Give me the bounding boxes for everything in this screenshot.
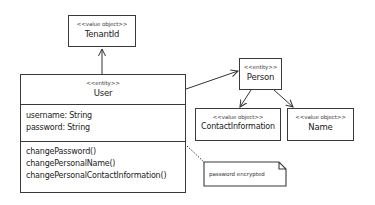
attributes-compartment: username: String password: String (21, 105, 185, 142)
class-name: TenantId (69, 29, 135, 39)
class-name: User (21, 88, 185, 98)
class-name: Person (240, 72, 281, 82)
association-person-name (274, 90, 293, 107)
method-change-password: changePassword() (26, 146, 185, 158)
association-person-contactinformation (240, 90, 251, 107)
stereotype-label: <<entity>> (240, 64, 281, 70)
method-change-personal-contact-information: changePersonalContactInformation() (26, 170, 185, 182)
class-contactinformation[interactable]: <<value object>> ContactInformation (195, 108, 281, 141)
class-name-valueobject[interactable]: <<value object>> Name (287, 108, 354, 141)
methods-compartment: changePassword() changePersonalName() ch… (21, 142, 185, 182)
association-user-person (186, 71, 238, 89)
class-tenantid[interactable]: <<value object>> TenantId (68, 15, 136, 47)
stereotype-label: <<value object>> (196, 114, 280, 120)
stereotype-label: <<value object>> (69, 21, 135, 27)
class-person[interactable]: <<entity>> Person (239, 58, 282, 90)
note-anchor-line (187, 146, 204, 162)
stereotype-label: <<value object>> (288, 114, 353, 120)
method-change-personal-name: changePersonalName() (26, 158, 185, 170)
class-user[interactable]: <<entity>> User username: String passwor… (20, 74, 186, 193)
note-password-encrypted: password encrypted (209, 171, 265, 177)
stereotype-label: <<entity>> (21, 75, 185, 86)
class-name: ContactInformation (196, 122, 280, 131)
attribute-password: password: String (26, 122, 185, 134)
class-header: <<entity>> User (21, 75, 185, 105)
attribute-username: username: String (26, 110, 185, 122)
class-name: Name (288, 122, 353, 132)
